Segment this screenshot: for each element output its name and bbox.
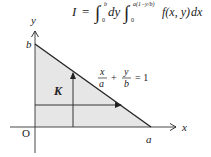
formula-lhs: I: [71, 4, 77, 19]
x-axis-label: x: [181, 121, 187, 133]
y-intercept-label: b: [26, 38, 32, 50]
eq-plus: +: [111, 72, 117, 83]
line-equation: x a + y b = 1: [98, 66, 148, 89]
inner-differential: dx: [191, 5, 203, 19]
inner-lower-limit: 0: [131, 17, 134, 23]
double-integral-diagram: I = ∫ b 0 dy ∫ a(1−y/b) 0 f(x, y) dx y x…: [0, 0, 211, 157]
eq-x-denominator: a: [99, 78, 104, 89]
y-axis-label: y: [30, 14, 36, 26]
region-label: K: [53, 84, 63, 98]
integrand: f(x, y): [162, 5, 190, 19]
outer-integral-sign-icon: ∫: [94, 2, 102, 25]
outer-upper-limit: b: [104, 1, 107, 7]
formula-equals: =: [82, 4, 89, 19]
inner-upper-limit: a(1−y/b): [133, 1, 154, 8]
outer-differential: dy: [108, 4, 121, 19]
eq-x-numerator: x: [99, 66, 105, 77]
origin-label: O: [22, 127, 30, 139]
eq-rhs: = 1: [135, 72, 148, 83]
integral-formula: I = ∫ b 0 dy ∫ a(1−y/b) 0 f(x, y) dx: [71, 1, 203, 25]
outer-lower-limit: 0: [102, 17, 105, 23]
eq-y-denominator: b: [124, 78, 129, 89]
eq-y-numerator: y: [123, 66, 129, 77]
x-intercept-label: a: [146, 133, 152, 145]
inner-integral-sign-icon: ∫: [123, 2, 131, 25]
